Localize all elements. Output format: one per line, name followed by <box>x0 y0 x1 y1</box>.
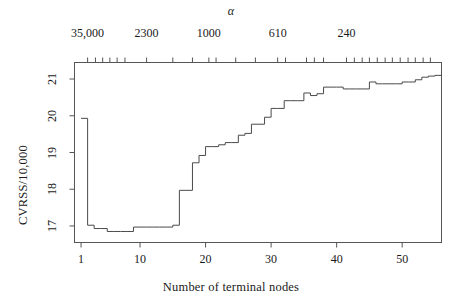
top-axis-ticks <box>88 58 431 63</box>
plot-frame <box>75 63 442 243</box>
cvrss-step-series <box>81 75 441 231</box>
plot-area <box>0 0 462 303</box>
x-axis-ticks <box>81 243 402 248</box>
y-axis-ticks <box>70 79 75 226</box>
cv-error-step-chart: α Number of terminal nodes CVRSS/10,000 … <box>0 0 462 303</box>
